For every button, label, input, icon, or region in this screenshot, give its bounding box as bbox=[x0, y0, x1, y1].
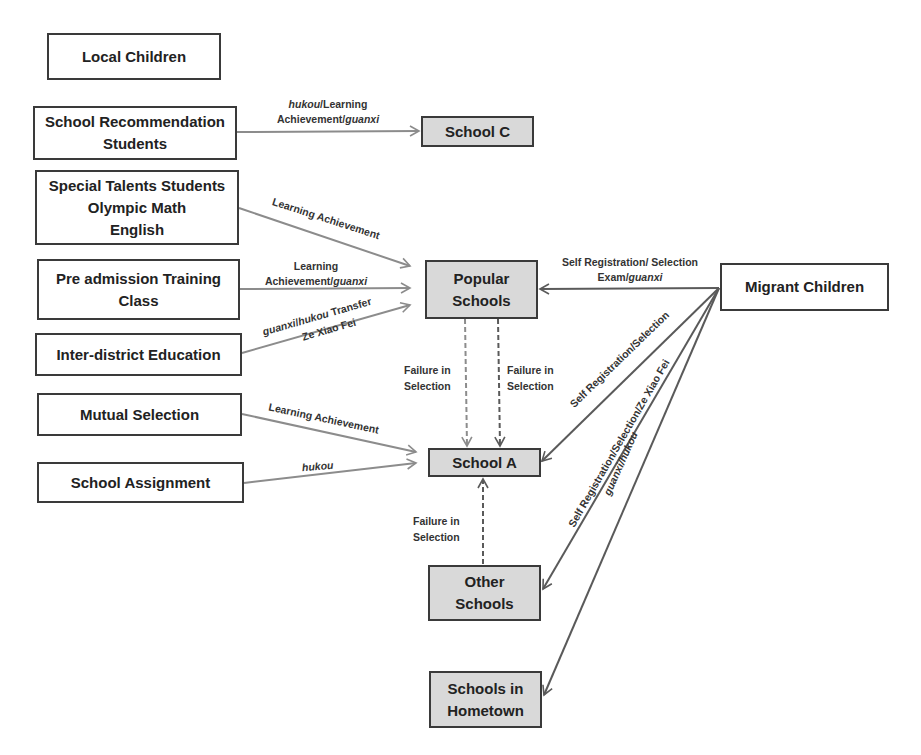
node-school-a-label: School A bbox=[452, 452, 516, 474]
label-migrant-to-other: Self Registration/Selection/Ze Xiao Fei bbox=[565, 357, 671, 529]
node-schools-hometown: Schools in Hometown bbox=[429, 671, 542, 728]
node-other-schools: Other Schools bbox=[428, 565, 541, 621]
label-recommendation-to-c-line1: hukou/Learning bbox=[289, 98, 368, 110]
label-assignment-to-a: hukou bbox=[301, 459, 334, 474]
node-schools-hometown-line2: Hometown bbox=[447, 700, 524, 722]
node-school-c: School C bbox=[421, 116, 534, 147]
edge-popular-to-a-right bbox=[498, 319, 500, 446]
label-failure-left: Failure in Selection bbox=[404, 362, 451, 394]
edge-migrant-to-popular bbox=[540, 288, 719, 289]
node-school-assignment-label: School Assignment bbox=[71, 472, 210, 494]
node-schools-hometown-line1: Schools in bbox=[447, 678, 524, 700]
edge-popular-to-a-left bbox=[465, 319, 467, 446]
node-school-recommendation-line1: School Recommendation bbox=[45, 111, 225, 133]
label-mutual-to-a: Learning Achievement bbox=[268, 401, 381, 436]
label-preadmission-line1: Learning bbox=[294, 260, 338, 272]
label-failure-left-line2: Selection bbox=[404, 378, 451, 394]
label-failure-left-line1: Failure in bbox=[404, 362, 451, 378]
node-inter-district: Inter-district Education bbox=[35, 333, 242, 376]
label-failure-other-line2: Selection bbox=[413, 529, 460, 545]
node-school-recommendation-line2: Students bbox=[45, 133, 225, 155]
node-school-assignment: School Assignment bbox=[37, 462, 244, 503]
node-pre-admission-line2: Class bbox=[56, 290, 221, 312]
node-local-children-label: Local Children bbox=[82, 46, 186, 68]
label-preadmission-line2: Achievement/guanxi bbox=[265, 275, 368, 287]
node-mutual-selection: Mutual Selection bbox=[37, 393, 242, 436]
node-pre-admission: Pre admission Training Class bbox=[37, 259, 240, 320]
edge-recommendation-to-c bbox=[237, 131, 419, 132]
node-popular-schools-line2: Schools bbox=[452, 290, 510, 312]
label-failure-other-line1: Failure in bbox=[413, 513, 460, 529]
node-school-a: School A bbox=[428, 448, 541, 477]
node-migrant-children-label: Migrant Children bbox=[745, 276, 864, 298]
node-school-c-label: School C bbox=[445, 121, 510, 143]
edge-preadmission-to-popular bbox=[240, 288, 410, 289]
node-special-talents-line3: English bbox=[49, 219, 225, 241]
label-failure-other: Failure in Selection bbox=[413, 513, 460, 545]
label-migrant-to-popular-line1: Self Registration/ Selection bbox=[562, 256, 698, 268]
label-failure-right: Failure in Selection bbox=[507, 362, 554, 394]
label-talents-to-popular: Learning Achievement bbox=[271, 195, 382, 241]
node-school-recommendation: School Recommendation Students bbox=[33, 106, 237, 160]
node-special-talents: Special Talents Students Olympic Math En… bbox=[35, 170, 239, 245]
label-failure-right-line2: Selection bbox=[507, 378, 554, 394]
node-local-children: Local Children bbox=[47, 33, 221, 80]
node-special-talents-line2: Olympic Math bbox=[49, 197, 225, 219]
label-migrant-to-popular-line2: Exam/guanxi bbox=[598, 271, 664, 283]
label-recommendation-to-c-line2: Achievement/guanxi bbox=[277, 113, 380, 125]
node-popular-schools: Popular Schools bbox=[425, 260, 538, 319]
node-migrant-children: Migrant Children bbox=[720, 263, 889, 311]
node-popular-schools-line1: Popular bbox=[452, 268, 510, 290]
node-mutual-selection-label: Mutual Selection bbox=[80, 404, 199, 426]
node-special-talents-line1: Special Talents Students bbox=[49, 175, 225, 197]
node-other-schools-line2: Schools bbox=[455, 593, 513, 615]
node-other-schools-line1: Other bbox=[455, 571, 513, 593]
node-pre-admission-line1: Pre admission Training bbox=[56, 268, 221, 290]
label-failure-right-line1: Failure in bbox=[507, 362, 554, 378]
node-inter-district-label: Inter-district Education bbox=[56, 344, 220, 366]
